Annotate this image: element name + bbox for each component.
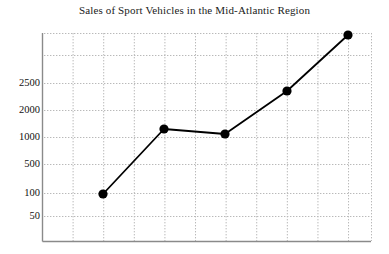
data-point-marker[interactable]: [98, 189, 107, 198]
horizontal-gridlines: [44, 34, 371, 217]
data-point-marker[interactable]: [282, 86, 291, 95]
data-point-marker[interactable]: [159, 124, 168, 133]
chart-container: Sales of Sport Vehicles in the Mid-Atlan…: [0, 0, 389, 254]
plot-svg: [0, 0, 389, 254]
series-line: [103, 35, 348, 194]
data-point-marker[interactable]: [220, 129, 229, 138]
data-point-marker[interactable]: [343, 30, 352, 39]
